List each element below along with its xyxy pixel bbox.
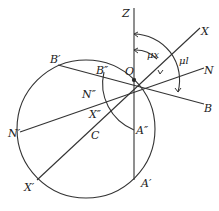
label-n-prime: N′: [7, 127, 21, 140]
label-b: B: [203, 102, 212, 115]
label-x-prime: X′: [23, 181, 35, 194]
origin-point: [132, 78, 135, 81]
x-line: [37, 28, 200, 180]
label-a-dprime: A″: [135, 124, 149, 137]
label-o: O: [125, 65, 134, 78]
label-angle-mux: μx: [147, 49, 159, 60]
label-c: C: [91, 129, 100, 142]
label-b-prime: B′: [49, 53, 61, 66]
label-n-dprime: N″: [81, 88, 97, 101]
label-angle-mul: μl: [179, 55, 189, 66]
arrow-mux-bottom: [158, 70, 163, 74]
label-x-dprime: X″: [88, 108, 102, 121]
n-line: [20, 68, 204, 132]
diagram-canvas: Z O X N B B′ B″ N′ N″ X′ X″ C A′ A″ μx μ…: [0, 0, 219, 211]
label-b-dprime: B″: [95, 64, 109, 77]
label-n: N: [203, 64, 214, 77]
label-x: X: [200, 25, 210, 38]
label-z: Z: [121, 7, 130, 20]
label-a-prime: A′: [140, 177, 152, 190]
